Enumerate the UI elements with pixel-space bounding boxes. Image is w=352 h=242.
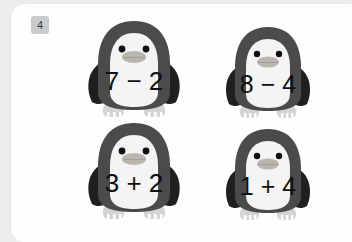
penguin-eye-left-2	[254, 51, 260, 57]
penguin-beak-3	[122, 153, 146, 165]
penguin-card-3[interactable]: 3 + 2	[74, 118, 194, 226]
penguin-eye-right-3	[143, 148, 150, 155]
penguin-eye-right-2	[276, 51, 282, 57]
penguin-grid: 7 − 2	[60, 14, 345, 234]
equation-text-4: 1 + 4	[208, 172, 328, 201]
equation-text-1: 7 − 2	[74, 66, 194, 97]
penguin-eye-right-1	[143, 46, 150, 53]
question-number-badge: 4	[31, 16, 49, 34]
penguin-eye-right-4	[276, 153, 282, 159]
equation-text-3: 3 + 2	[74, 168, 194, 199]
penguin-card-4[interactable]: 1 + 4	[208, 122, 328, 230]
penguin-beak-1	[122, 51, 146, 63]
worksheet-stage: 4	[0, 0, 352, 242]
penguin-card-1[interactable]: 7 − 2	[74, 16, 194, 124]
penguin-eye-left-3	[119, 148, 126, 155]
equation-text-2: 8 − 4	[208, 70, 328, 99]
penguin-beak-4	[257, 159, 279, 170]
penguin-beak-2	[257, 57, 279, 68]
penguin-card-2[interactable]: 8 − 4	[208, 20, 328, 128]
penguin-eye-left-4	[254, 153, 260, 159]
penguin-eye-left-1	[119, 46, 126, 53]
